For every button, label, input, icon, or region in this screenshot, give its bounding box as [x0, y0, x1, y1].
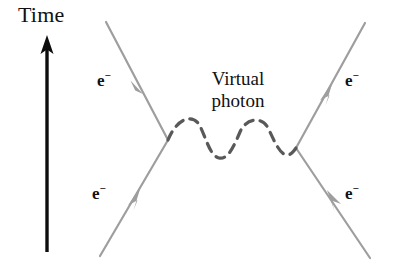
fermion-line-outgoing-lower-right	[296, 148, 370, 258]
photon-propagator-path	[168, 119, 296, 158]
electron-label-bottom-left: e−	[92, 183, 105, 202]
electron-charge-superscript: −	[353, 182, 359, 194]
virtual-photon-wave	[168, 119, 296, 158]
time-axis-arrow	[41, 35, 54, 252]
virtual-photon-label: Virtualphoton	[190, 68, 286, 112]
electron-label-top-right: e−	[345, 70, 358, 89]
fermion-arrowhead-outgoing-lower-right	[327, 190, 341, 211]
fermion-line-incoming-upper-left	[106, 22, 168, 140]
electron-symbol: e	[97, 71, 105, 90]
electron-charge-superscript: −	[100, 182, 106, 194]
electron-symbol: e	[345, 184, 353, 203]
time-axis-label: Time	[18, 4, 64, 26]
electron-label-top-left: e−	[97, 70, 110, 89]
electron-label-bottom-right: e−	[345, 183, 358, 202]
feynman-diagram-figure: Time e− e− e− e− Virtualphoton	[0, 0, 395, 264]
electron-charge-superscript: −	[105, 69, 111, 81]
virtual-photon-label-line1: Virtual	[212, 68, 265, 89]
diagram-canvas	[0, 0, 395, 264]
fermion-lines	[100, 22, 370, 258]
virtual-photon-label-line2: photon	[190, 90, 286, 112]
electron-symbol: e	[92, 184, 100, 203]
electron-charge-superscript: −	[353, 69, 359, 81]
electron-symbol: e	[345, 71, 353, 90]
